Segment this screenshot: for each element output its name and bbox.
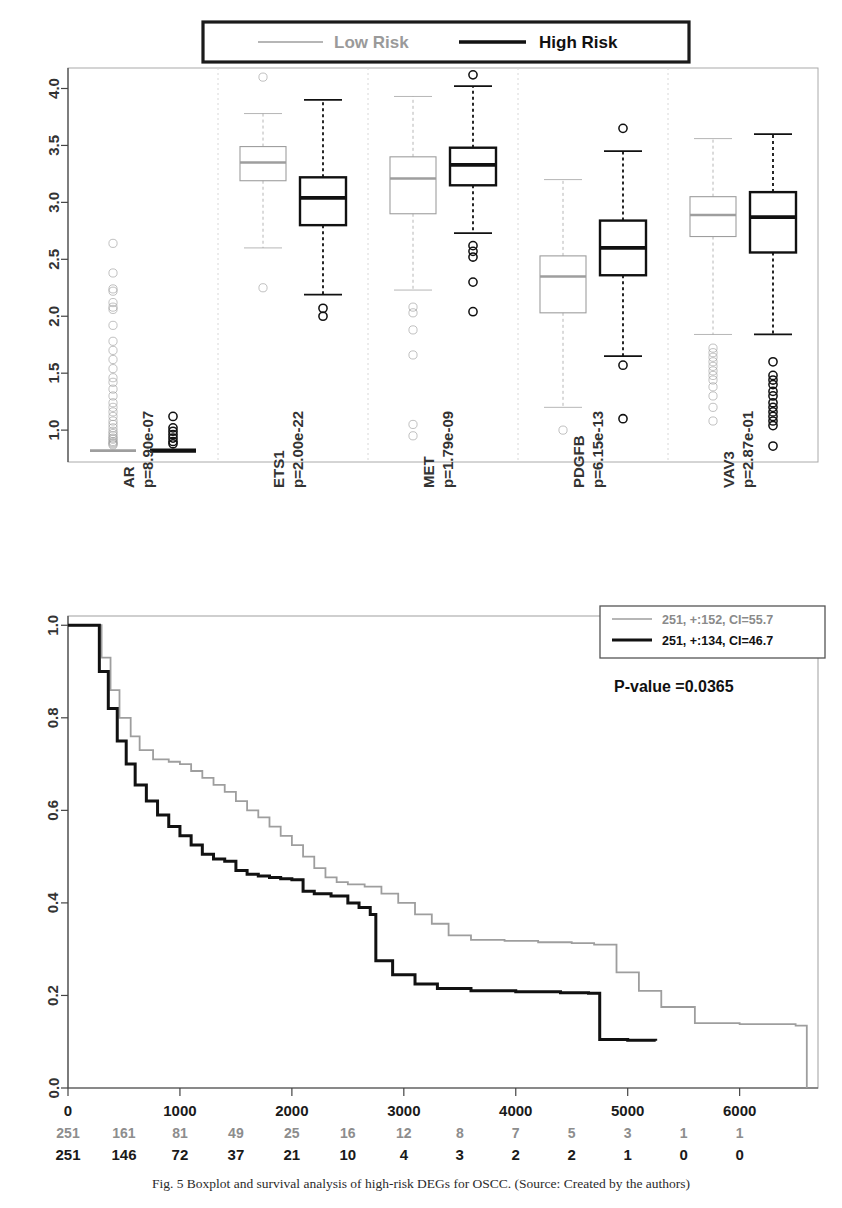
risk-count: 49 bbox=[228, 1125, 244, 1141]
y-tick-label: 1.5 bbox=[46, 363, 63, 384]
boxplot-svg: 1.01.52.02.53.03.54.0ARp=8.90e-07ETS1p=2… bbox=[0, 0, 842, 600]
outlier-point bbox=[469, 253, 477, 261]
boxplot-box-ets1-low bbox=[240, 73, 286, 292]
outlier-point bbox=[109, 403, 117, 411]
outlier-point bbox=[469, 308, 477, 316]
figure-container: 1.01.52.02.53.03.54.0ARp=8.90e-07ETS1p=2… bbox=[0, 0, 842, 1208]
outlier-point bbox=[619, 361, 627, 369]
outlier-point bbox=[559, 426, 567, 434]
outlier-point bbox=[319, 304, 327, 312]
km-legend-label-low: 251, +:152, CI=55.7 bbox=[662, 613, 773, 627]
boxplot-panel: 1.01.52.02.53.03.54.0ARp=8.90e-07ETS1p=2… bbox=[0, 0, 842, 600]
risk-count: 12 bbox=[396, 1125, 412, 1141]
km-legend-box: 251, +:152, CI=55.7251, +:134, CI=46.7 bbox=[600, 606, 825, 658]
outlier-point bbox=[109, 346, 117, 354]
boxplot-box-ets1-high bbox=[300, 100, 346, 320]
boxplot-frame bbox=[68, 68, 818, 462]
boxplot-box-met-high bbox=[450, 71, 496, 316]
boxplot-box-ar-high bbox=[150, 412, 196, 450]
outlier-point bbox=[409, 420, 417, 428]
boxplot-box-pdgfb-low bbox=[540, 180, 586, 435]
outlier-point bbox=[709, 349, 717, 357]
risk-count: 21 bbox=[284, 1146, 301, 1163]
risk-count: 25 bbox=[284, 1125, 300, 1141]
risk-count: 1 bbox=[624, 1146, 632, 1163]
boxplot-box-vav3-low bbox=[690, 139, 736, 426]
risk-count: 81 bbox=[172, 1125, 188, 1141]
risk-count: 10 bbox=[340, 1146, 357, 1163]
gene-pvalue: p=6.15e-13 bbox=[589, 411, 606, 488]
km-curve-high bbox=[68, 625, 656, 1041]
boxplot-box-pdgfb-high bbox=[600, 124, 646, 423]
boxplot-y-axis: 1.01.52.02.53.03.54.0 bbox=[46, 68, 69, 462]
outlier-point bbox=[109, 337, 117, 345]
gene-pvalue: p=2.00e-22 bbox=[289, 411, 306, 488]
outlier-point bbox=[709, 353, 717, 361]
y-tick-label: 2.0 bbox=[46, 306, 63, 327]
risk-count: 3 bbox=[624, 1125, 632, 1141]
risk-count: 16 bbox=[340, 1125, 356, 1141]
gene-name: ETS1 bbox=[270, 450, 287, 488]
legend-label-low: Low Risk bbox=[334, 33, 409, 52]
y-tick-label: 2.5 bbox=[46, 249, 63, 270]
outlier-point bbox=[709, 358, 717, 366]
risk-count: 72 bbox=[172, 1146, 189, 1163]
km-legend-label-high: 251, +:134, CI=46.7 bbox=[662, 634, 773, 648]
outlier-point bbox=[109, 303, 117, 311]
km-pvalue-annotation: P-value =0.0365 bbox=[614, 678, 734, 695]
risk-count: 0 bbox=[735, 1146, 743, 1163]
figure-caption: Fig. 5 Boxplot and survival analysis of … bbox=[0, 1176, 842, 1193]
risk-count: 5 bbox=[568, 1125, 576, 1141]
outlier-point bbox=[469, 278, 477, 286]
boxplot-box-vav3-high bbox=[750, 134, 796, 450]
outlier-point bbox=[109, 239, 117, 247]
gene-pvalue: p=2.87e-01 bbox=[739, 411, 756, 488]
gene-pvalue: p=8.90e-07 bbox=[139, 411, 156, 488]
outlier-point bbox=[709, 344, 717, 352]
legend-label-high: High Risk bbox=[539, 33, 618, 52]
km-x-tick-label: 0 bbox=[64, 1102, 72, 1119]
km-panel: 0.00.20.40.60.81.00100020003000400050006… bbox=[0, 588, 842, 1208]
km-y-tick-label: 0.2 bbox=[45, 985, 62, 1006]
risk-count: 1 bbox=[680, 1125, 688, 1141]
km-risk-table: 2511618149251612875311251146723721104322… bbox=[55, 1125, 743, 1163]
km-y-tick-label: 0.6 bbox=[45, 800, 62, 821]
boxplot-x-label-vav3: VAV3p=2.87e-01 bbox=[720, 411, 756, 488]
outlier-point bbox=[709, 417, 717, 425]
boxplot-x-label-pdgfb: PDGFBp=6.15e-13 bbox=[570, 411, 606, 488]
outlier-point bbox=[709, 371, 717, 379]
outlier-point bbox=[409, 326, 417, 334]
km-x-tick-label: 6000 bbox=[723, 1102, 756, 1119]
outlier-point bbox=[109, 269, 117, 277]
outlier-point bbox=[619, 415, 627, 423]
gene-name: PDGFB bbox=[570, 435, 587, 488]
outlier-point bbox=[769, 442, 777, 450]
outlier-point bbox=[709, 403, 717, 411]
km-svg: 0.00.20.40.60.81.00100020003000400050006… bbox=[0, 588, 842, 1208]
km-x-tick-label: 3000 bbox=[387, 1102, 420, 1119]
outlier-point bbox=[259, 73, 267, 81]
outlier-point bbox=[769, 358, 777, 366]
risk-count: 146 bbox=[111, 1146, 136, 1163]
gene-name: MET bbox=[420, 456, 437, 488]
risk-count: 37 bbox=[228, 1146, 245, 1163]
outlier-point bbox=[709, 362, 717, 370]
risk-count: 251 bbox=[55, 1146, 80, 1163]
gene-pvalue: p=1.79e-09 bbox=[439, 411, 456, 488]
km-x-tick-label: 2000 bbox=[275, 1102, 308, 1119]
km-x-tick-label: 1000 bbox=[163, 1102, 196, 1119]
risk-count: 161 bbox=[112, 1125, 136, 1141]
km-x-tick-label: 5000 bbox=[611, 1102, 644, 1119]
outlier-point bbox=[109, 374, 117, 382]
outlier-point bbox=[109, 408, 117, 416]
km-x-axis: 0100020003000400050006000 bbox=[64, 1088, 818, 1119]
boxplot-box-ar-low bbox=[90, 239, 136, 450]
outlier-point bbox=[169, 412, 177, 420]
outlier-point bbox=[109, 287, 117, 295]
km-x-tick-label: 4000 bbox=[499, 1102, 532, 1119]
y-tick-label: 4.0 bbox=[46, 78, 63, 99]
outlier-point bbox=[409, 351, 417, 359]
outlier-point bbox=[259, 284, 267, 292]
km-y-tick-label: 0.4 bbox=[45, 892, 62, 914]
y-tick-label: 1.0 bbox=[46, 420, 63, 441]
